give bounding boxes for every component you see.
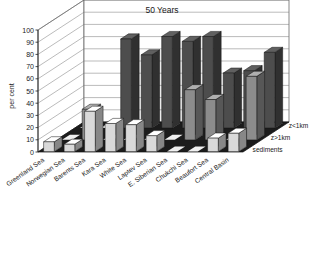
y-tick-label: 80 — [26, 51, 34, 58]
bar-front — [162, 37, 173, 129]
series-label-z>1km: z>1km — [271, 134, 291, 141]
bar-front — [208, 138, 219, 151]
y-tick-label: 20 — [26, 124, 34, 131]
y-tick-label: 70 — [26, 63, 34, 70]
y-tick-label: 30 — [26, 112, 34, 119]
bar-front — [246, 76, 257, 139]
bar-front — [105, 123, 116, 151]
bar-side — [131, 34, 139, 128]
bar-front — [141, 55, 152, 128]
chart-container: 1009080706050403020100per cent50 YearsGr… — [0, 0, 323, 255]
y-tick-label: 0 — [30, 149, 34, 156]
series-label-z<1km: z<1km — [289, 122, 309, 129]
bar-front — [223, 73, 234, 128]
chart-title: 50 Years — [145, 5, 178, 15]
bar-front — [146, 136, 157, 152]
bar-front — [121, 39, 132, 128]
bar-side — [152, 50, 160, 128]
series-label-sediments: sediments — [253, 146, 284, 153]
bar-front — [126, 125, 137, 152]
bar-side — [136, 120, 144, 152]
y-tick-label: 90 — [26, 39, 34, 46]
y-axis-title: per cent — [8, 83, 16, 108]
bar-side — [195, 85, 203, 140]
y-tick-label: 60 — [26, 75, 34, 82]
y-tick-label: 10 — [26, 136, 34, 143]
plot-area: 1009080706050403020100per cent50 YearsGr… — [5, 0, 309, 189]
bar-side — [275, 47, 283, 128]
bar-front — [64, 144, 75, 151]
bar-chart-3d: 1009080706050403020100per cent50 YearsGr… — [0, 0, 323, 255]
bar-front — [228, 133, 239, 151]
bar-side — [234, 68, 242, 128]
bar-front — [185, 90, 196, 140]
bar-side — [116, 118, 124, 151]
bar-side — [257, 71, 265, 140]
y-tick-label: 50 — [26, 88, 34, 95]
bar-side — [95, 106, 103, 151]
y-tick-label: 40 — [26, 100, 34, 107]
bar-front — [264, 52, 275, 128]
y-tick-label: 100 — [22, 27, 34, 34]
bar-front — [44, 142, 55, 152]
bar-front — [85, 111, 96, 151]
bar-side — [172, 31, 180, 128]
